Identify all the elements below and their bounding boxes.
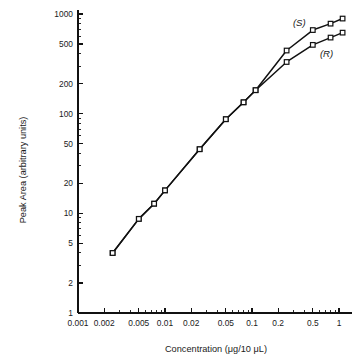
y-tick-label: 10 — [64, 208, 74, 218]
x-tick-label: 0.05 — [218, 318, 235, 328]
series-label-r: (R) — [320, 48, 333, 59]
data-point-marker — [253, 88, 258, 93]
y-tick-label: 500 — [59, 39, 73, 49]
series-annotations: (S)(R) — [293, 17, 333, 59]
series-line — [113, 33, 343, 253]
data-point-marker — [241, 100, 246, 105]
data-point-marker — [340, 30, 345, 35]
calibration-curve-chart: 12510205010020050010000.0010.0020.0050.0… — [0, 0, 358, 363]
x-tick-label: 0.5 — [307, 318, 319, 328]
data-point-marker — [284, 60, 289, 65]
y-tick-label: 1 — [68, 308, 73, 318]
x-tick-label: 0.01 — [157, 318, 174, 328]
x-tick-label: 0.2 — [272, 318, 284, 328]
series-s — [110, 16, 345, 255]
y-tick-label: 200 — [59, 79, 73, 89]
y-axis-title: Peak Area (arbitrary units) — [18, 117, 28, 224]
y-tick-label: 1000 — [54, 9, 73, 19]
data-point-marker — [197, 147, 202, 152]
y-tick-label: 20 — [64, 178, 74, 188]
data-point-marker — [328, 35, 333, 40]
series-r — [110, 30, 345, 255]
y-tick-label: 2 — [68, 278, 73, 288]
x-tick-label: 0.02 — [183, 318, 200, 328]
data-series — [110, 16, 345, 255]
data-point-marker — [152, 201, 157, 206]
data-point-marker — [311, 43, 316, 48]
series-line — [113, 19, 343, 253]
data-point-marker — [224, 117, 229, 122]
y-tick-label: 50 — [64, 139, 74, 149]
series-label-s: (S) — [293, 17, 306, 28]
data-point-marker — [137, 217, 142, 222]
x-tick-label: 0.001 — [68, 318, 89, 328]
chart-figure: 12510205010020050010000.0010.0020.0050.0… — [0, 0, 358, 363]
data-point-marker — [284, 48, 289, 53]
tick-labels: 12510205010020050010000.0010.0020.0050.0… — [54, 9, 341, 328]
data-point-marker — [110, 251, 115, 256]
data-point-marker — [328, 21, 333, 26]
y-tick-label: 100 — [59, 109, 73, 119]
x-tick-label: 1 — [337, 318, 342, 328]
x-axis-title: Concentration (μg/10 μL) — [165, 344, 267, 354]
x-tick-label: 0.005 — [128, 318, 149, 328]
data-point-marker — [163, 188, 168, 193]
data-point-marker — [311, 28, 316, 33]
axes — [78, 10, 352, 313]
data-point-marker — [340, 16, 345, 21]
x-tick-label: 0.1 — [246, 318, 258, 328]
tick-marks — [78, 14, 339, 313]
x-tick-label: 0.002 — [94, 318, 115, 328]
y-tick-label: 5 — [68, 238, 73, 248]
